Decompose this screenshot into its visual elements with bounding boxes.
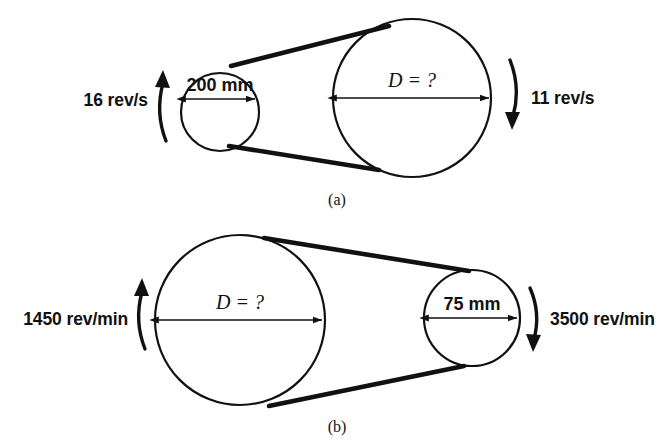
figure-background xyxy=(0,0,670,448)
diameter-label-large-b: D = ? xyxy=(215,291,264,313)
speed-label-right-b: 3500 rev/min xyxy=(550,309,655,329)
speed-label-right-a: 11 rev/s xyxy=(531,88,595,108)
figure-canvas: 200 mm D = ? 16 rev/s 11 rev/s (a) xyxy=(0,0,670,448)
caption-b: (b) xyxy=(328,418,347,436)
diameter-label-small-a: 200 mm xyxy=(186,75,253,95)
speed-label-left-a: 16 rev/s xyxy=(84,90,149,110)
caption-a: (a) xyxy=(328,191,346,209)
belt-drive-figure: 200 mm D = ? 16 rev/s 11 rev/s (a) xyxy=(0,0,670,448)
diameter-label-large-a: D = ? xyxy=(387,69,436,91)
speed-label-left-b: 1450 rev/min xyxy=(23,309,128,329)
diameter-label-small-b: 75 mm xyxy=(443,294,500,314)
